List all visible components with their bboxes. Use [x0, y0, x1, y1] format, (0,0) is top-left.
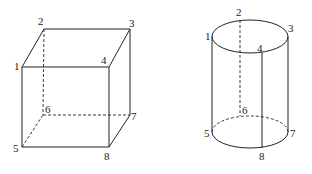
cube-label-6: 6 — [45, 103, 51, 115]
cyl-label-2: 2 — [236, 6, 242, 18]
cube-edge-4-3 — [109, 29, 130, 67]
cylinder-bottom-hidden-arc — [212, 116, 288, 132]
cube-label-7: 7 — [131, 110, 137, 122]
cube-label-1: 1 — [14, 60, 20, 72]
cylinder-bottom-visible-arc — [212, 132, 288, 148]
cyl-label-5: 5 — [204, 127, 210, 139]
cube-figure: 2 3 1 4 6 7 5 8 — [13, 15, 137, 162]
cyl-label-7: 7 — [290, 127, 296, 139]
diagram-canvas: 2 3 1 4 6 7 5 8 2 3 1 4 6 7 5 8 — [0, 0, 312, 174]
cyl-label-3: 3 — [288, 22, 294, 34]
cube-hidden-edge-5-6 — [22, 115, 43, 147]
cube-label-5: 5 — [13, 142, 19, 154]
cyl-label-6: 6 — [242, 104, 248, 116]
cube-hidden-edge-2-6 — [43, 29, 44, 115]
cylinder-top-ellipse — [212, 20, 288, 53]
cyl-label-4: 4 — [257, 42, 263, 54]
cyl-label-1: 1 — [205, 30, 211, 42]
cube-edge-8-7 — [109, 115, 130, 147]
cube-label-2: 2 — [38, 15, 44, 27]
cube-label-3: 3 — [129, 17, 135, 29]
cube-edge-1-2 — [22, 29, 44, 67]
cube-label-8: 8 — [104, 150, 110, 162]
cylinder-figure: 2 3 1 4 6 7 5 8 — [204, 6, 296, 162]
cube-label-4: 4 — [101, 54, 107, 66]
cyl-label-8: 8 — [259, 150, 265, 162]
